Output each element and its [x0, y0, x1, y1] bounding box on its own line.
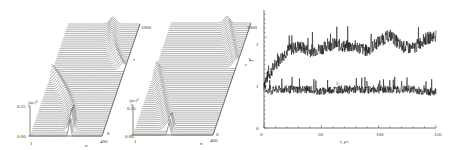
ytick-0: 0 [256, 126, 259, 131]
curve-label-2: 2 [336, 81, 339, 86]
xtick-b-right: 400 [210, 138, 218, 143]
ytick-b-bottom: 0.00 [125, 134, 134, 139]
ylabel-a: |ψₙ|² [28, 100, 37, 105]
line-chart-canvas [240, 0, 461, 150]
depth-tick-a-start: 0 [107, 131, 110, 136]
ylabel-c: F [248, 58, 254, 62]
ytick-1: 1 [256, 84, 259, 89]
xtick-100: 100 [376, 132, 384, 137]
ytick-a-top: 0.25 [17, 104, 26, 109]
ytick-a-bottom: 0.00 [17, 134, 26, 139]
waterfall-plot-b: |ψₙ|² 0.25 0.00 1 n 400 0 τ 1000 [115, 0, 255, 150]
curve-label-1: 1 [300, 40, 303, 45]
xlabel-b: n [200, 141, 203, 146]
ylabel-b: |ψₙ|² [129, 98, 138, 103]
line-chart-f-vs-t: F 2 1 0 0 50 100 150 t, ps 1 2 [240, 0, 461, 150]
xtick-0: 0 [260, 132, 263, 137]
xtick-a-left: 1 [30, 141, 33, 146]
xtick-b-left: 1 [134, 139, 137, 144]
ytick-2: 2 [256, 42, 259, 47]
depth-tick-b-start: 0 [216, 132, 219, 137]
waterfall-b-canvas [115, 0, 255, 150]
xtick-150: 150 [434, 132, 442, 137]
xlabel-c: t, ps [340, 139, 348, 144]
xlabel-a: n [85, 143, 88, 148]
xtick-50: 50 [318, 132, 323, 137]
ytick-b-top: 0.25 [127, 106, 136, 111]
xtick-a-right: 400 [100, 139, 108, 144]
